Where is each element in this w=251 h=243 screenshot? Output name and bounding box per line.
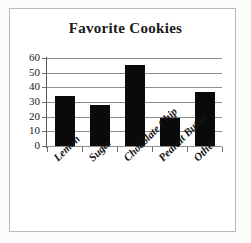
x-axis-tick — [222, 147, 223, 152]
y-axis-tick-label: 60 — [12, 52, 40, 63]
y-axis-labels: 0102030405060 — [12, 0, 42, 243]
x-axis-tick — [187, 147, 188, 152]
y-axis-tick — [42, 117, 47, 118]
y-axis-tick — [42, 131, 47, 132]
y-axis-tick-label: 50 — [12, 67, 40, 78]
chart-screenshot: Favorite Cookies 0102030405060 LemonSuga… — [0, 0, 251, 243]
gridline — [47, 58, 222, 59]
x-axis-tick — [47, 147, 48, 152]
y-axis-tick-label: 30 — [12, 96, 40, 107]
y-axis-tick-label: 0 — [12, 140, 40, 151]
x-axis-tick — [82, 147, 83, 152]
y-axis-tick — [42, 102, 47, 103]
y-axis-tick — [42, 87, 47, 88]
x-axis-tick — [152, 147, 153, 152]
y-axis-tick — [42, 58, 47, 59]
y-axis-tick-label: 40 — [12, 81, 40, 92]
y-axis-tick-label: 10 — [12, 125, 40, 136]
x-axis-tick — [117, 147, 118, 152]
y-axis-tick-label: 20 — [12, 111, 40, 122]
y-axis-tick — [42, 73, 47, 74]
